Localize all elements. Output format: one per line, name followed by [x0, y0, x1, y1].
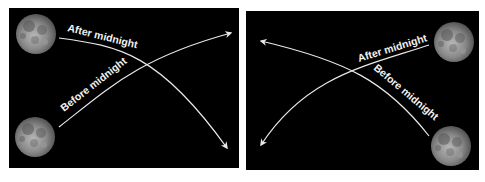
left-panel: After midnight Before midnight — [9, 8, 239, 168]
moon-icon — [15, 117, 55, 157]
right-panel: After midnight Before midnight — [246, 11, 479, 170]
before-midnight-label: Before midnight — [372, 61, 442, 122]
moon-icon — [434, 22, 474, 62]
after-midnight-label: After midnight — [356, 31, 429, 64]
before-midnight-label: Before midnight — [58, 54, 129, 113]
moon-icon — [16, 14, 56, 54]
left-diagram: After midnight Before midnight — [9, 8, 239, 168]
moon-icon — [431, 126, 471, 166]
before-midnight-path — [59, 33, 231, 127]
right-diagram: After midnight Before midnight — [246, 11, 479, 170]
